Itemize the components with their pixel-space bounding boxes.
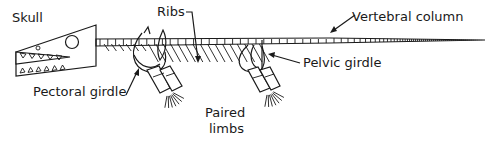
pectoral-limb (147, 66, 184, 108)
arrowhead-ribs (195, 56, 201, 63)
pectoral-girdle-inner (134, 55, 160, 67)
digit-ray (265, 95, 267, 107)
ribs (104, 44, 269, 62)
arrowhead-vertebral-column (330, 26, 337, 33)
pelvic-limb (248, 67, 284, 107)
pectoral-process (144, 27, 150, 34)
label-ribs: Ribs (157, 4, 185, 19)
arrowhead-pelvic-girdle (268, 52, 275, 58)
leader-pectoral-girdle (126, 72, 137, 95)
label-pelvic-girdle: Pelvic girdle (303, 55, 381, 70)
label-paired-limbs-2: limbs (209, 121, 244, 136)
label-skull: Skull (12, 10, 43, 25)
digit-ray (165, 96, 167, 108)
pectoral-digits (165, 93, 184, 108)
label-paired-limbs-1: Paired (205, 105, 245, 120)
leader-pelvic-girdle (272, 55, 300, 63)
arrowhead-pectoral-girdle (134, 68, 139, 76)
vertebral-column (96, 38, 485, 46)
label-pectoral-girdle: Pectoral girdle (33, 84, 126, 99)
leader-ribs (186, 12, 198, 60)
skull (16, 25, 96, 76)
label-vertebral-column: Vertebral column (352, 9, 463, 24)
skeleton-diagram: Skull Ribs Vertebral column Pelvic girdl… (0, 0, 503, 144)
pectoral-girdle (133, 27, 165, 72)
pelvic-digits (265, 92, 284, 107)
